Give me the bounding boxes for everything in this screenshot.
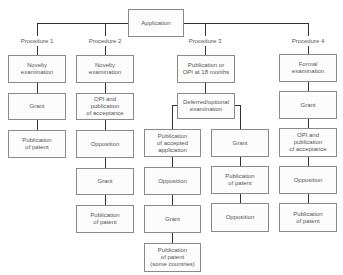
p3-link [172,233,173,243]
p3-link [240,194,241,203]
p4-opi-publication: OPI and publication of acceptance [279,128,337,157]
p3-publication-opi-18-months: Publication or OPI at 18 months [177,55,235,83]
p1-drop [37,23,38,36]
procedure-4-label: Procedure 4 [278,38,338,44]
p3-link [205,46,206,55]
p2-drop [105,23,106,36]
p3-link [205,83,206,93]
p3a-grant: Grant [144,205,201,233]
p2-link [105,195,106,205]
p2-link [105,158,106,168]
p2-opposition: Opposition [76,130,134,158]
p3-deferred-examination: Deferred/optional examination [177,93,235,119]
p4-publication-of-patent: Publication of patent [279,203,337,232]
p3a-opposition: Opposition [144,167,201,195]
p3b-grant: Grant [211,129,269,157]
p3-link [240,157,241,166]
p1-link [37,83,38,93]
p3a-publication-of-patent: Publication of patent (some countries) [144,243,201,272]
p1-link [37,120,38,130]
p1-link [37,46,38,55]
p3b-publication-of-patent: Publication of patent [211,166,269,194]
p2-novelty-examination: Novelty examination [76,55,134,83]
p3a-publication-accepted-application: Publication of accepted application [144,129,201,157]
p3-branch-left [172,105,173,129]
p4-link [308,82,309,91]
p3b-opposition: Opposition [211,203,269,232]
p4-link [308,46,309,54]
p3-link [172,195,173,205]
p1-grant: Grant [8,93,66,120]
p4-link [308,157,309,166]
p2-link [105,46,106,55]
p4-link [308,194,309,203]
p1-novelty-examination: Novelty examination [8,55,66,83]
p1-publication-of-patent: Publication of patent [8,130,66,158]
p4-opposition: Opposition [279,166,337,194]
p2-link [105,120,106,130]
procedure-3-label: Procedure 3 [175,38,235,44]
p2-grant: Grant [76,168,134,195]
procedure-2-label: Procedure 2 [75,38,135,44]
application-node: Application [128,9,184,37]
p2-link [105,83,106,93]
p2-publication-of-patent: Publication of patent [76,205,134,233]
p3-branch-right [240,105,241,129]
p4-link [308,119,309,128]
procedure-1-label: Procedure 1 [7,38,67,44]
p4-grant: Grant [279,91,337,119]
p3-link [172,157,173,167]
p4-drop [308,23,309,36]
p3-drop [205,23,206,36]
p2-opi-publication: OPI and publication of acceptance [76,93,134,120]
p4-formal-examination: Formal examination [279,54,337,82]
